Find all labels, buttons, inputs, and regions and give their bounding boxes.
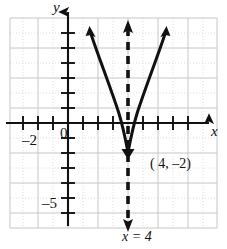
x-axis-label: x	[211, 124, 218, 139]
y-tick-label-negative-5: –5	[42, 196, 57, 211]
vertex-coordinate-label: ( 4, –2)	[150, 157, 191, 171]
vertex-marker	[122, 149, 135, 160]
coordinate-plane-svg	[0, 0, 227, 249]
graph-figure: y x 0 –2 –5 ( 4, –2) x = 4	[0, 0, 227, 249]
y-axis-label: y	[53, 0, 60, 15]
origin-label: 0	[60, 126, 68, 141]
axis-of-symmetry-label: x = 4	[122, 230, 152, 244]
x-tick-label-negative-2: –2	[22, 133, 37, 148]
